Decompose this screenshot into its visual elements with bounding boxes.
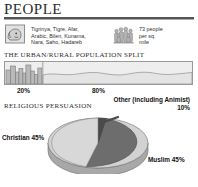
urban-rural-heading: THE URBAN/RURAL POPULATION SPLIT <box>4 51 198 59</box>
rural-percent-label: 80% <box>92 87 105 94</box>
speaking-head-icon <box>4 24 28 46</box>
religion-pie-area: Other (including Animist) 10% Christian … <box>0 112 198 178</box>
urban-percent-label: 20% <box>17 87 30 94</box>
page-title: PEOPLE <box>4 2 198 16</box>
urban-rural-illustration <box>5 62 192 84</box>
urban-rural-band <box>4 61 193 85</box>
crowd-of-people-icon <box>112 24 136 46</box>
fact-density-text: 73 people per sq. mile <box>139 24 177 46</box>
urban-rural-band-wrap: 20% 80% <box>4 61 193 97</box>
fact-density: 73 people per sq. mile <box>112 24 177 46</box>
people-panel: PEOPLE Tigrinya, Tigre, Afar, Arabic, Bi… <box>0 2 198 178</box>
fact-languages: Tigrinya, Tigre, Afar, Arabic, Bilen, Ku… <box>4 24 112 46</box>
fact-languages-text: Tigrinya, Tigre, Afar, Arabic, Bilen, Ku… <box>31 24 86 46</box>
religion-pie-chart <box>46 112 150 174</box>
pie-label-other: Other (including Animist) 10% <box>104 96 190 112</box>
title-divider <box>4 17 194 20</box>
pie-label-christian: Christian 45% <box>2 134 44 142</box>
pie-label-muslim: Muslim 45% <box>148 156 185 164</box>
facts-row: Tigrinya, Tigre, Afar, Arabic, Bilen, Ku… <box>4 24 198 46</box>
